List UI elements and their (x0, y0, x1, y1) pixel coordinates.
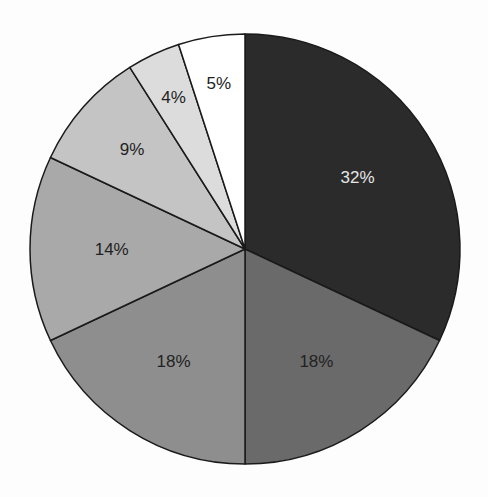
slice-label: 4% (161, 88, 186, 107)
slice-label: 32% (340, 168, 374, 187)
slice-label: 14% (95, 240, 129, 259)
slice-label: 5% (207, 74, 232, 93)
pie-chart: 32%18%18%14%9%4%5% (0, 0, 488, 497)
slice-label: 18% (299, 352, 333, 371)
slice-label: 18% (157, 352, 191, 371)
slice-label: 9% (120, 140, 145, 159)
